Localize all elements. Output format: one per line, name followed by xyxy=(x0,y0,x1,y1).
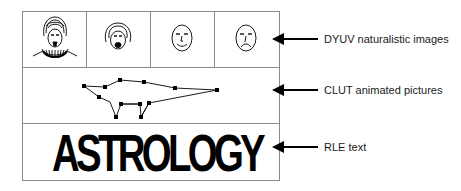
label-rle: RLE text xyxy=(324,141,366,153)
arrows xyxy=(272,33,318,153)
arrow-left-icon xyxy=(272,141,318,153)
label-clut: CLUT animated pictures xyxy=(324,84,442,96)
ruffled-collar-portrait-icon xyxy=(33,17,77,58)
arrow-left-icon xyxy=(272,84,318,96)
bonnet-face-icon xyxy=(105,23,130,49)
arrow-left-icon xyxy=(272,33,318,45)
label-dyuv: DYUV naturalistic images xyxy=(324,33,449,45)
rle-text: ASTROLOGY xyxy=(52,124,265,182)
smiling-face-icon xyxy=(172,25,192,51)
frowning-face-icon xyxy=(236,25,256,51)
